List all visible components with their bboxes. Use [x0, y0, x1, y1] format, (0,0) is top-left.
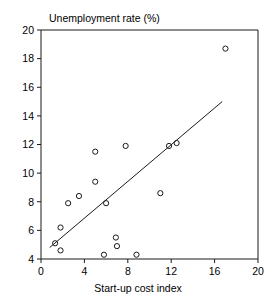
x-tick-label: 20 — [252, 265, 264, 277]
x-axis-title: Start-up cost index — [94, 282, 182, 294]
y-tick-label: 12 — [22, 138, 34, 150]
y-tick-label: 10 — [22, 167, 34, 179]
x-tick-label: 12 — [165, 265, 177, 277]
y-tick-label: 16 — [22, 81, 34, 93]
x-tick-label: 8 — [125, 265, 131, 277]
y-axis-title: Unemployment rate (%) — [49, 12, 160, 24]
y-tick-label: 4 — [28, 253, 34, 265]
x-tick-label: 0 — [38, 265, 44, 277]
x-tick-label: 16 — [209, 265, 221, 277]
x-tick-label: 4 — [81, 265, 87, 277]
y-tick-label: 14 — [22, 110, 34, 122]
y-tick-label: 6 — [28, 224, 34, 236]
y-tick-label: 18 — [22, 52, 34, 64]
y-tick-label: 8 — [28, 196, 34, 208]
y-tick-label: 20 — [22, 24, 34, 36]
scatter-plot-figure: Unemployment rate (%) 468101214161820 04… — [0, 0, 276, 306]
